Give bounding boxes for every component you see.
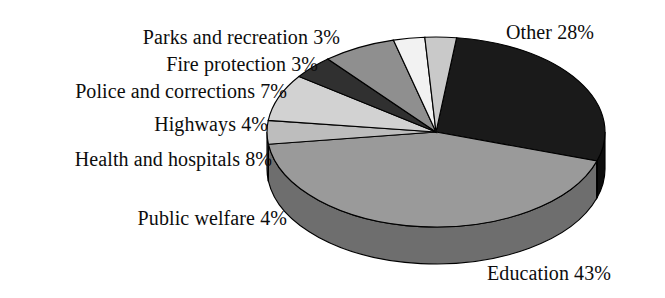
slice-label-fire-protection: Fire protection 3% [0, 53, 318, 76]
slice-label-health-and-hospitals: Health and hospitals 8% [0, 148, 272, 171]
slice-label-other: Other 28% [506, 21, 594, 44]
pie-chart-figure: Parks and recreation 3% Fire protection … [0, 0, 665, 298]
slice-label-highways: Highways 4% [0, 113, 268, 136]
slice-label-parks-and-recreation: Parks and recreation 3% [0, 26, 340, 49]
slice-label-police-and-corrections: Police and corrections 7% [0, 80, 287, 103]
slice-label-education: Education 43% [487, 262, 611, 285]
slice-label-public-welfare: Public welfare 4% [0, 207, 287, 230]
